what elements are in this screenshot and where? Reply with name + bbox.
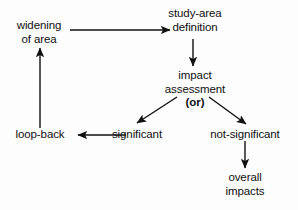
node-not-significant-line-1: not-significant (198, 128, 292, 142)
node-impact-assessment: impact assessment (or) (152, 69, 238, 110)
node-widening-of-area: widening of area (8, 19, 70, 46)
node-loop-back: loop-back (6, 128, 74, 142)
node-study-area-line-2: definition (160, 21, 230, 35)
node-impact-line-2: assessment (152, 83, 238, 97)
node-impact-or-label: (or) (152, 96, 238, 110)
node-study-area-definition: study-area definition (160, 7, 230, 34)
node-overall-line-1: overall (214, 171, 276, 185)
node-overall-line-2: impacts (214, 185, 276, 199)
node-significant: significant (104, 128, 170, 142)
flowchart: widening of area study-area definition i… (0, 0, 298, 210)
node-not-significant: not-significant (198, 128, 292, 142)
node-widening-line-1: widening (8, 19, 70, 33)
node-overall-impacts: overall impacts (214, 171, 276, 198)
node-significant-line-1: significant (104, 128, 170, 142)
node-study-area-line-1: study-area (160, 7, 230, 21)
node-impact-line-1: impact (152, 69, 238, 83)
node-loop-back-line-1: loop-back (6, 128, 74, 142)
node-widening-line-2: of area (8, 33, 70, 47)
